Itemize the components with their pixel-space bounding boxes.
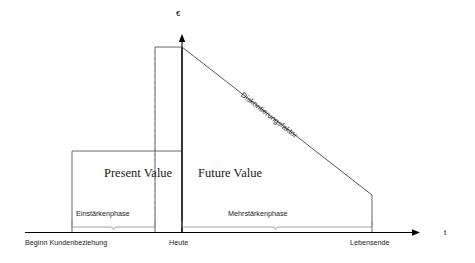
diagram-canvas: € t Present Value Future Value Diskontie… [0,0,475,263]
mehrstaerkenphase-brace [182,221,372,230]
tick-label-lebensende: Lebensende [350,239,390,246]
present-value-label: Present Value [104,167,172,180]
mehrstaerkenphase-label: Mehrstärkenphase [228,210,288,217]
einstaerkenphase-label: Einstärkenphase [76,210,130,217]
x-axis-label: t [444,229,446,237]
future-value-label: Future Value [198,167,262,180]
y-axis-arrowhead [179,34,185,42]
einstaerkenphase-brace [72,221,155,230]
tick-label-beginn-kundenbeziehung: Beginn Kundenbeziehung [25,239,107,246]
x-axis-arrowhead [412,229,420,236]
y-axis-label: € [176,10,180,18]
present-value-rectangle [72,151,182,232]
future-value-rectangle [155,47,182,232]
x-axis [25,229,420,236]
diagram-graphics [0,0,475,263]
tick-label-heute: Heute [169,239,188,246]
